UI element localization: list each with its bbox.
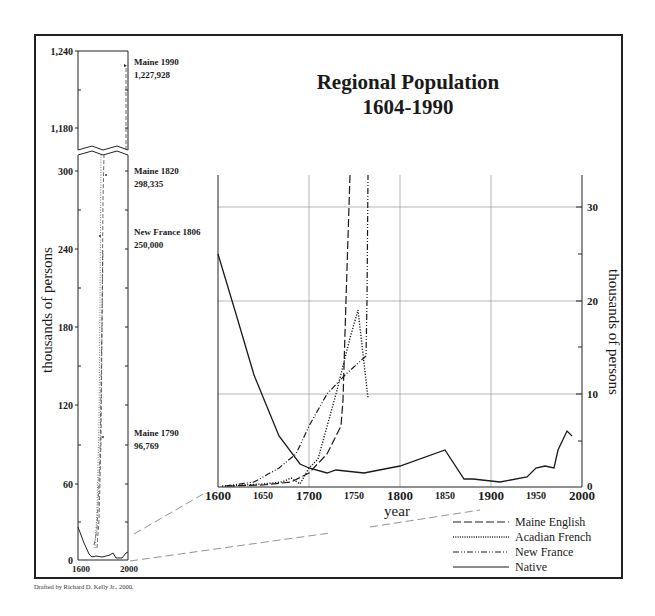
axis-break-icon [78,146,128,150]
chart-canvas: 1,240 1,180 300 240 180 120 60 0 1600 20… [0,0,655,616]
annot-maine-1820-value: 298,335 [134,179,164,189]
annot-maine-1790-label: Maine 1790 [134,428,179,438]
inset-xtick-2000: 2000 [120,564,139,574]
main-xtick-1900: 1900 [478,488,504,503]
annot-maine-1990-value: 1,227,928 [134,70,171,80]
main-xtick-1700: 1700 [296,488,322,503]
inset-chart: 1,240 1,180 300 240 180 120 60 0 1600 20… [39,46,201,574]
legend-label-maine-english: Maine English [515,515,585,529]
series-acadian-french [222,310,368,486]
inset-tick-240: 240 [58,244,73,255]
main-ytick-20: 20 [587,295,599,307]
main-xtick-1650: 1650 [253,490,273,501]
credit-text: Drafted by Richard D. Kelly Jr., 2000. [34,583,134,590]
main-y-label: thousands of persons [606,269,622,395]
series-native [218,254,572,482]
main-xtick-1600: 1600 [205,488,231,503]
main-ytick-30: 30 [587,201,599,213]
annot-maine-1820-label: Maine 1820 [134,166,179,176]
main-xtick-1950: 1950 [526,490,546,501]
main-xtick-1850: 1850 [435,490,455,501]
legend-label-native: Native [515,560,547,574]
main-ytick-10: 10 [587,388,599,400]
inset-tick-60: 60 [63,479,73,490]
inset-xtick-1600: 1600 [72,564,91,574]
inset-tick-120: 120 [58,400,73,411]
series-new-france [225,175,368,486]
main-xtick-1800: 1800 [387,488,413,503]
zoom-connector-lines [130,493,480,561]
legend-label-acadian-french: Acadian French [515,530,591,544]
inset-y-label: thousands of persons [39,247,55,373]
annot-maine-1790-value: 96,769 [134,441,159,451]
inset-tick-1240: 1,240 [51,46,74,57]
main-chart: 30 20 10 0 1600 1650 1700 1750 1800 1850… [205,175,622,519]
main-x-label: year [384,503,410,519]
inset-tick-300: 300 [58,166,73,177]
main-xtick-2000: 2000 [569,488,595,503]
legend-label-new-france: New France [515,545,573,559]
annot-newfrance-1806-label: New France 1806 [134,227,201,237]
main-xtick-1750: 1750 [344,490,364,501]
annot-maine-1990-label: Maine 1990 [134,57,179,67]
inset-tick-1180: 1,180 [51,123,74,134]
annot-newfrance-1806-value: 250,000 [134,240,164,250]
series-maine-english [227,175,350,486]
inset-tick-180: 180 [58,322,73,333]
legend: Maine English Acadian French New France … [453,515,591,574]
